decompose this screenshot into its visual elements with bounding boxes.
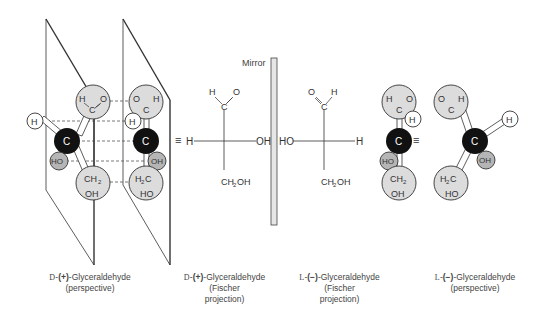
svg-text:C: C [89, 105, 96, 115]
svg-text:H: H [458, 94, 465, 104]
svg-text:C: C [448, 105, 455, 115]
mirror-label: Mirror [242, 58, 266, 68]
svg-text:H: H [129, 117, 136, 127]
molecule-d-projected: O H C H C OH H 2 C HO [125, 85, 166, 200]
svg-text:O: O [100, 94, 107, 104]
equivalence-symbol: ≡ [413, 134, 419, 146]
svg-text:O: O [438, 94, 445, 104]
svg-text:OH: OH [151, 157, 163, 166]
svg-text:H: H [79, 94, 86, 104]
svg-text:OH: OH [391, 189, 405, 199]
equivalence-symbol: ≡ [175, 134, 181, 146]
svg-text:O: O [133, 94, 140, 104]
svg-text:HO: HO [279, 136, 294, 147]
svg-text:C: C [321, 102, 328, 112]
svg-text:H: H [153, 94, 160, 104]
config-letter: D [49, 273, 55, 282]
svg-text:CH: CH [390, 174, 403, 184]
svg-text:H: H [31, 117, 38, 127]
svg-text:H: H [331, 87, 338, 97]
svg-text:C: C [221, 102, 228, 112]
svg-text:H: H [186, 136, 193, 147]
svg-text:OH: OH [256, 136, 271, 147]
svg-text:OH: OH [479, 156, 491, 165]
svg-text:H: H [356, 136, 363, 147]
svg-text:OH: OH [337, 177, 351, 187]
svg-text:C: C [145, 174, 152, 184]
svg-text:HO: HO [382, 157, 394, 166]
svg-text:HO: HO [140, 189, 154, 199]
caption-l-fischer: L-(−)-Glyceraldehyde (Fischer projection… [287, 272, 392, 305]
svg-text:C: C [143, 105, 150, 115]
molecule-l-perspective: O H C H C OH H 2 C HO [434, 85, 518, 200]
svg-text:O: O [308, 87, 315, 97]
svg-text:C: C [396, 105, 403, 115]
svg-text:OH: OH [85, 189, 99, 199]
caption-l-perspective: L-(−)-Glyceraldehyde (perspective) [420, 272, 530, 294]
svg-text:CH: CH [84, 174, 97, 184]
svg-text:O: O [233, 87, 240, 97]
svg-text:C: C [395, 136, 402, 147]
molecule-d-perspective: H O C H C HO CH 2 OH [27, 85, 110, 200]
caption-d-fischer: D-(+)-Glyceraldehyde (Fischer projection… [172, 272, 277, 305]
svg-text:H: H [386, 94, 393, 104]
svg-text:HO: HO [445, 189, 459, 199]
caption-d-perspective: D-(+)-Glyceraldehyde (perspective) [30, 272, 150, 294]
svg-text:C: C [450, 174, 457, 184]
svg-text:OH: OH [237, 177, 251, 187]
svg-text:H: H [409, 115, 416, 125]
svg-text:C: C [471, 136, 478, 147]
svg-text:O: O [406, 94, 413, 104]
svg-text:H: H [209, 87, 216, 97]
mirror-plane [271, 58, 277, 225]
svg-text:C: C [142, 136, 149, 147]
svg-text:HO: HO [51, 157, 63, 166]
svg-text:H: H [506, 115, 513, 125]
svg-text:C: C [63, 136, 70, 147]
